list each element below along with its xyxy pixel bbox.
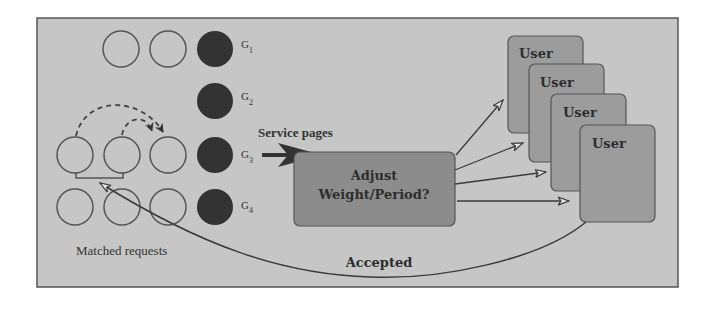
user-label: User bbox=[563, 105, 597, 120]
adjust-label-line2: Weight/Period? bbox=[318, 187, 430, 202]
user-card-4: User bbox=[580, 125, 655, 222]
adjust-label-line1: Adjust bbox=[350, 168, 398, 183]
request-matching-diagram: G1 G2 G3 G4 Matched requests Service pag… bbox=[0, 0, 714, 309]
group-node-g1 bbox=[197, 31, 233, 67]
accepted-label: Accepted bbox=[345, 255, 413, 270]
matched-requests-label: Matched requests bbox=[76, 243, 167, 258]
service-pages-label: Service pages bbox=[258, 125, 333, 140]
user-label: User bbox=[519, 46, 553, 61]
group-node-g2 bbox=[197, 83, 233, 119]
adjust-weight-period-box: Adjust Weight/Period? bbox=[294, 152, 455, 226]
group-node-g4 bbox=[197, 189, 233, 225]
user-label: User bbox=[540, 75, 574, 90]
user-label: User bbox=[592, 136, 626, 151]
group-node-g3 bbox=[197, 137, 233, 173]
